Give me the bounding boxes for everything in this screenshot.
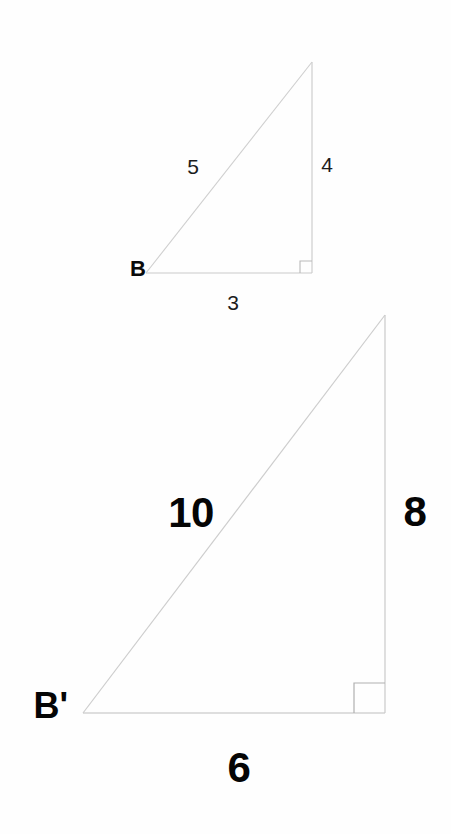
large-triangle-hypotenuse-label: 10 <box>152 492 230 534</box>
small-triangle-vertex-label: B <box>112 258 146 280</box>
large-triangle-vertical-leg-label: 8 <box>394 491 436 533</box>
large-triangle-group <box>83 315 385 713</box>
small-triangle-hypotenuse-label: 5 <box>173 156 213 177</box>
small-triangle-horizontal-leg-label: 3 <box>213 292 253 313</box>
large-triangle-horizontal-leg-label: 6 <box>212 747 266 789</box>
geometry-figure: B 5 4 3 B' 10 8 6 <box>0 0 451 834</box>
small-triangle-hypotenuse <box>146 62 312 273</box>
large-triangle-right-angle-icon <box>354 683 385 713</box>
small-triangle-right-angle-icon <box>300 261 312 273</box>
small-triangle-vertical-leg-label: 4 <box>307 154 347 175</box>
small-triangle-group <box>146 62 312 273</box>
large-triangle-vertex-label: B' <box>14 688 68 724</box>
large-triangle-hypotenuse <box>83 315 385 713</box>
